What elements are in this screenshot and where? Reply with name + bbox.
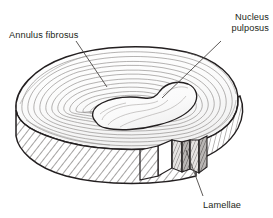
label-nucleus-pulposus-line2: pulposus xyxy=(231,23,269,34)
label-annulus-fibrosus: Annulus fibrosus xyxy=(9,30,79,41)
label-lamellae: Lamellae xyxy=(203,200,241,211)
anatomy-figure: Annulus fibrosus Nucleus pulposus Lamell… xyxy=(0,0,273,218)
label-nucleus-pulposus-line1: Nucleus xyxy=(231,12,269,23)
label-nucleus-pulposus: Nucleus pulposus xyxy=(231,12,269,33)
